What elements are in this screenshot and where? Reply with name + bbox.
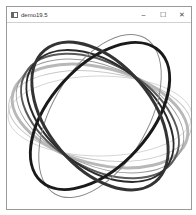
close-button[interactable]: ✕ bbox=[172, 7, 191, 22]
title-bar[interactable]: demo19.5 – ☐ ✕ bbox=[7, 7, 191, 23]
drawing-canvas bbox=[7, 22, 191, 209]
ellipse-0 bbox=[8, 76, 191, 156]
app-window-icon bbox=[11, 12, 18, 18]
rotated-ellipses-graphic bbox=[7, 22, 191, 209]
window-controls: – ☐ ✕ bbox=[134, 7, 191, 22]
minimize-button[interactable]: – bbox=[134, 7, 153, 22]
window-title: demo19.5 bbox=[21, 12, 48, 18]
maximize-button[interactable]: ☐ bbox=[153, 7, 172, 22]
app-window: demo19.5 – ☐ ✕ bbox=[6, 6, 192, 210]
